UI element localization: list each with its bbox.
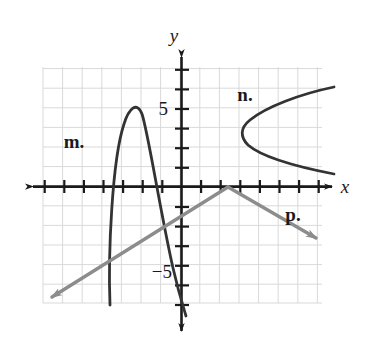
y-tick-label-5: 5	[159, 98, 169, 119]
curve-label-n: n.	[237, 84, 252, 105]
y-tick-label-negative-5: −5	[152, 261, 172, 282]
curve-label-m: m.	[64, 131, 85, 152]
coordinate-graph-figure: y x 5 −5 m. n. p.	[0, 0, 367, 344]
curve-p-absolute-value	[52, 187, 316, 297]
axes	[33, 57, 332, 331]
curve-p-left-ray	[52, 187, 228, 297]
y-axis-label: y	[168, 25, 179, 46]
curve-n-parabola	[242, 87, 334, 174]
curve-label-p: p.	[285, 204, 300, 225]
curve-p-right-ray	[228, 187, 316, 238]
x-axis-label: x	[340, 176, 350, 197]
